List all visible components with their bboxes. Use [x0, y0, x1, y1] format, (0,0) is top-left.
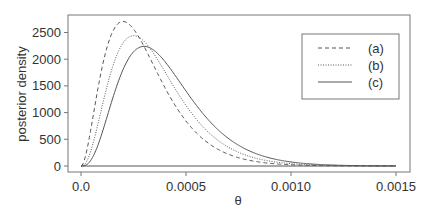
y-axis-label: posterior density — [14, 46, 29, 142]
x-axis-ticks: 0.00.00050.00100.0015 — [72, 172, 416, 194]
x-tick-label: 0.0 — [72, 179, 90, 194]
y-tick-label: 500 — [39, 132, 61, 147]
x-tick-label: 0.0005 — [166, 179, 206, 194]
y-tick-label: 1000 — [32, 105, 61, 120]
x-tick-label: 0.0010 — [271, 179, 311, 194]
legend: (a) (b) (c) — [302, 34, 399, 99]
posterior-density-chart: 05001000150020002500 0.00.00050.00100.00… — [0, 0, 432, 218]
y-tick-label: 2000 — [32, 52, 61, 67]
x-tick-label: 0.0015 — [376, 179, 416, 194]
y-tick-label: 2500 — [32, 25, 61, 40]
legend-label-b: (b) — [368, 58, 384, 73]
legend-label-c: (c) — [368, 75, 383, 90]
y-axis-ticks: 05001000150020002500 — [32, 25, 68, 174]
legend-box — [302, 34, 399, 99]
x-axis-label: θ — [234, 193, 241, 208]
legend-label-a: (a) — [368, 41, 384, 56]
y-tick-label: 0 — [54, 159, 61, 174]
y-tick-label: 1500 — [32, 78, 61, 93]
